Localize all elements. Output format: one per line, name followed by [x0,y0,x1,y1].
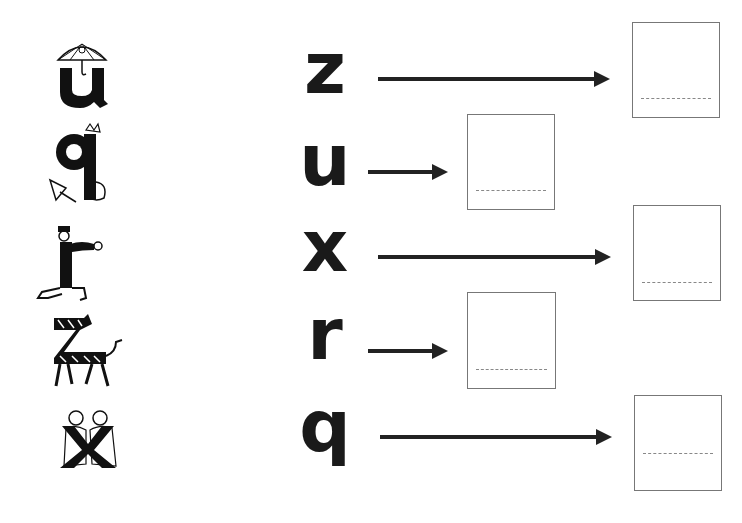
row-letter-q: q [290,390,360,462]
answer-box-r[interactable] [467,292,556,389]
row-letter-z: z [290,32,360,104]
writing-line [643,453,713,454]
row-letter-r: r [290,298,360,370]
zebra-z-icon [50,312,126,402]
writing-line [641,98,711,99]
row-letter-x: x [290,210,360,282]
answer-box-q[interactable] [634,395,722,491]
arrow-right-icon [378,77,596,81]
arrow-right-icon [368,349,434,353]
arrow-right-icon [380,435,598,439]
writing-line [476,190,546,191]
arrow-right-icon [378,255,597,259]
kissing-x-icon [56,408,126,472]
row-letter-u: u [290,124,360,196]
answer-box-x[interactable] [633,205,721,301]
writing-line [642,282,712,283]
arrow-right-icon [368,170,434,174]
runner-r-icon [36,222,106,302]
queen-q-icon [46,122,116,206]
umbrella-u-icon [52,38,112,110]
writing-line [476,369,547,370]
answer-box-u[interactable] [467,114,555,210]
answer-box-z[interactable] [632,22,720,118]
